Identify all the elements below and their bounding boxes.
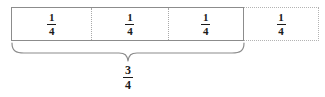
fraction-denominator: 4 bbox=[201, 25, 211, 37]
bar-cell-1: 1 4 bbox=[12, 8, 91, 40]
fraction-one-quarter: 1 4 bbox=[201, 12, 211, 37]
fraction-denominator: 4 bbox=[123, 78, 133, 91]
brace-label-three-quarters: 3 4 bbox=[11, 64, 245, 91]
fraction-one-quarter: 1 4 bbox=[125, 12, 135, 37]
fraction-denominator: 4 bbox=[276, 25, 286, 37]
fraction-one-quarter: 1 4 bbox=[47, 12, 57, 37]
fraction-denominator: 4 bbox=[125, 25, 135, 37]
fraction-numerator: 1 bbox=[47, 12, 57, 24]
bar-model: 1 4 1 4 1 4 bbox=[11, 7, 319, 41]
fraction-numerator: 1 bbox=[125, 12, 135, 24]
fraction-bar-diagram: 1 4 1 4 1 4 bbox=[0, 0, 325, 97]
fraction-numerator: 1 bbox=[201, 12, 211, 24]
fraction-three-quarters: 3 4 bbox=[123, 64, 133, 91]
bar-cell-4-dotted: 1 4 bbox=[244, 7, 319, 41]
fraction-one-quarter: 1 4 bbox=[276, 12, 286, 37]
bar-cell-2: 1 4 bbox=[91, 8, 167, 40]
fraction-numerator: 1 bbox=[276, 12, 286, 24]
bar-cell-3: 1 4 bbox=[168, 8, 243, 40]
fraction-denominator: 4 bbox=[47, 25, 57, 37]
brace-curly bbox=[11, 42, 245, 63]
fraction-numerator: 3 bbox=[123, 64, 133, 77]
solid-bar-group: 1 4 1 4 1 4 bbox=[11, 7, 244, 41]
